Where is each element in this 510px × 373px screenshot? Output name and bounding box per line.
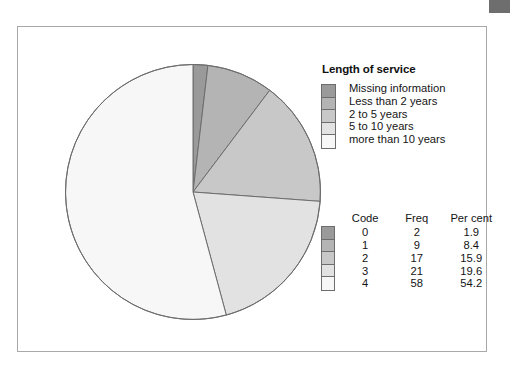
table-cell-code: 3 <box>345 265 385 278</box>
table-row: 45854.2 <box>345 277 496 290</box>
frequency-table-grid: Code Freq Per cent 021.9198.421715.93211… <box>345 212 496 290</box>
legend-swatch <box>322 110 335 123</box>
table-cell-freq: 2 <box>385 226 436 239</box>
table-cell-pct: 8.4 <box>436 239 496 252</box>
table-cell-freq: 58 <box>385 277 436 290</box>
table-swatch <box>322 252 334 265</box>
table-header-freq: Freq <box>385 212 436 226</box>
table-cell-code: 1 <box>345 239 385 252</box>
table-row: 021.9 <box>345 226 496 239</box>
table-swatch <box>322 227 334 240</box>
frequency-table-body: Code Freq Per cent 021.9198.421715.93211… <box>321 212 496 291</box>
table-row: 32119.6 <box>345 265 496 278</box>
table-cell-freq: 17 <box>385 252 436 265</box>
table-swatch-column <box>321 226 335 291</box>
table-header-percent: Per cent <box>436 212 496 226</box>
table-header-row: Code Freq Per cent <box>345 212 496 226</box>
legend-title: Length of service <box>322 63 486 75</box>
table-header-code: Code <box>345 212 385 226</box>
legend: Length of service Missing informationLes… <box>321 63 486 149</box>
table-row: 198.4 <box>345 239 496 252</box>
legend-swatch <box>322 98 335 111</box>
table-row-group: 021.9198.421715.932119.645854.2 <box>345 226 496 290</box>
scan-artifact-block <box>489 0 510 13</box>
pie-svg <box>64 63 322 321</box>
table-swatch <box>322 277 334 290</box>
table-cell-freq: 21 <box>385 265 436 278</box>
table-cell-freq: 9 <box>385 239 436 252</box>
table-row: 21715.9 <box>345 252 496 265</box>
table-cell-code: 0 <box>345 226 385 239</box>
table-cell-pct: 19.6 <box>436 265 496 278</box>
table-swatch <box>322 265 334 278</box>
table-swatch <box>322 240 334 253</box>
table-cell-pct: 54.2 <box>436 277 496 290</box>
legend-item-label: Missing information <box>349 82 445 95</box>
legend-item-label: 5 to 10 years <box>349 120 445 133</box>
legend-item-label: Less than 2 years <box>349 95 445 108</box>
table-cell-pct: 15.9 <box>436 252 496 265</box>
frequency-table: Code Freq Per cent 021.9198.421715.93211… <box>321 212 496 291</box>
legend-swatch <box>322 123 335 136</box>
legend-body: Missing informationLess than 2 years2 to… <box>321 82 486 149</box>
legend-item-label: more than 10 years <box>349 133 445 146</box>
pie-slice-group <box>65 65 320 320</box>
legend-swatch <box>322 135 335 148</box>
pie-chart <box>64 63 322 321</box>
legend-swatch <box>322 85 335 98</box>
figure-frame: Length of service Missing informationLes… <box>17 26 487 352</box>
table-cell-pct: 1.9 <box>436 226 496 239</box>
table-cell-code: 4 <box>345 277 385 290</box>
table-cell-code: 2 <box>345 252 385 265</box>
legend-item-label: 2 to 5 years <box>349 108 445 121</box>
legend-swatch-column <box>321 84 336 149</box>
legend-label-column: Missing informationLess than 2 years2 to… <box>349 82 445 146</box>
